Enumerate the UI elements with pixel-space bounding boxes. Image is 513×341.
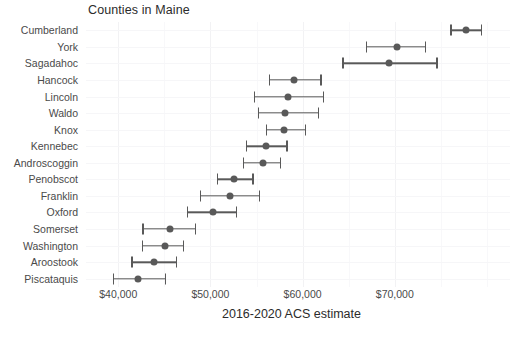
- errorbar-cap-low: [254, 91, 255, 102]
- data-point-row: [86, 107, 510, 120]
- errorbar-cap-high: [280, 157, 281, 168]
- errorbar-cap-high: [236, 207, 237, 218]
- errorbar-cap-low: [243, 157, 244, 168]
- data-point-marker: [134, 275, 141, 282]
- data-point-marker: [166, 226, 173, 233]
- errorbar-cap-high: [195, 224, 196, 235]
- y-tick-label-somerset: Somerset: [33, 223, 78, 235]
- y-tick-label-piscataquis: Piscataquis: [24, 273, 78, 285]
- errorbar-cap-low: [366, 41, 367, 52]
- y-tick-label-knox: Knox: [54, 124, 78, 136]
- data-point-marker: [281, 126, 288, 133]
- data-point-row: [86, 272, 510, 285]
- errorbar-cap-low: [142, 224, 143, 235]
- data-point-row: [86, 223, 510, 236]
- errorbar-cap-high: [436, 58, 437, 69]
- data-point-row: [86, 140, 510, 153]
- data-point-row: [86, 123, 510, 136]
- page-title: Counties in Maine: [88, 3, 190, 17]
- x-tick-label-50000: $50,000: [191, 288, 229, 300]
- data-point-row: [86, 256, 510, 269]
- data-point-marker: [291, 76, 298, 83]
- errorbar-cap-high: [481, 25, 482, 36]
- y-tick-label-sagadahoc: Sagadahoc: [25, 57, 78, 69]
- x-tick-label-40000: $40,000: [99, 288, 137, 300]
- data-point-marker: [262, 143, 269, 150]
- errorbar-cap-low: [342, 58, 343, 69]
- data-point-marker: [259, 159, 266, 166]
- y-tick-label-penobscot: Penobscot: [28, 173, 78, 185]
- y-tick-label-lincoln: Lincoln: [45, 91, 78, 103]
- errorbar-cap-low: [450, 25, 451, 36]
- data-point-row: [86, 156, 510, 169]
- data-point-marker: [284, 93, 291, 100]
- chart-figure: Counties in Maine CumberlandYorkSagadaho…: [0, 0, 513, 341]
- data-point-row: [86, 57, 510, 70]
- errorbar-cap-high: [323, 91, 324, 102]
- data-point-marker: [226, 192, 233, 199]
- data-point-marker: [393, 43, 400, 50]
- errorbar-cap-low: [246, 141, 247, 152]
- data-point-row: [86, 90, 510, 103]
- data-point-row: [86, 40, 510, 53]
- errorbar-cap-high: [320, 74, 321, 85]
- data-point-row: [86, 189, 510, 202]
- errorbar-cap-low: [113, 273, 114, 284]
- plot-area: [86, 22, 510, 287]
- x-axis-title: 2016-2020 ACS estimate: [0, 307, 513, 321]
- data-point-row: [86, 73, 510, 86]
- data-point-marker: [210, 209, 217, 216]
- errorbar-cap-high: [425, 41, 426, 52]
- data-point-row: [86, 239, 510, 252]
- errorbar-cap-high: [165, 273, 166, 284]
- y-tick-label-kennebec: Kennebec: [31, 140, 78, 152]
- data-point-marker: [151, 259, 158, 266]
- data-point-marker: [462, 27, 469, 34]
- y-axis: CumberlandYorkSagadahocHancockLincolnWal…: [0, 22, 82, 287]
- errorbar-cap-low: [258, 108, 259, 119]
- errorbar-cap-low: [187, 207, 188, 218]
- errorbar-cap-high: [183, 240, 184, 251]
- y-tick-label-oxford: Oxford: [46, 206, 78, 218]
- data-point-marker: [282, 110, 289, 117]
- y-tick-label-waldo: Waldo: [49, 107, 78, 119]
- x-axis: $40,000$50,000$60,000$70,000: [86, 288, 510, 304]
- errorbar-cap-low: [217, 174, 218, 185]
- y-tick-label-york: York: [57, 41, 78, 53]
- y-tick-label-hancock: Hancock: [37, 74, 78, 86]
- y-tick-label-franklin: Franklin: [41, 190, 78, 202]
- errorbar-cap-low: [269, 74, 270, 85]
- y-tick-label-washington: Washington: [23, 240, 78, 252]
- x-tick-label-60000: $60,000: [284, 288, 322, 300]
- errorbar-cap-high: [318, 108, 319, 119]
- errorbar-cap-low: [266, 124, 267, 135]
- errorbar-cap-low: [131, 257, 132, 268]
- errorbar-cap-low: [200, 190, 201, 201]
- data-point-row: [86, 173, 510, 186]
- errorbar-cap-high: [305, 124, 306, 135]
- errorbar-cap-high: [176, 257, 177, 268]
- x-tick-label-70000: $70,000: [376, 288, 414, 300]
- y-tick-label-cumberland: Cumberland: [21, 24, 78, 36]
- errorbar-cap-high: [259, 190, 260, 201]
- data-point-marker: [162, 242, 169, 249]
- y-tick-label-androscoggin: Androscoggin: [14, 157, 78, 169]
- y-tick-label-aroostook: Aroostook: [31, 256, 78, 268]
- errorbar-cap-high: [252, 174, 253, 185]
- data-point-row: [86, 206, 510, 219]
- errorbar-cap-high: [286, 141, 287, 152]
- data-point-row: [86, 24, 510, 37]
- data-point-marker: [386, 60, 393, 67]
- data-point-marker: [231, 176, 238, 183]
- errorbar-cap-low: [142, 240, 143, 251]
